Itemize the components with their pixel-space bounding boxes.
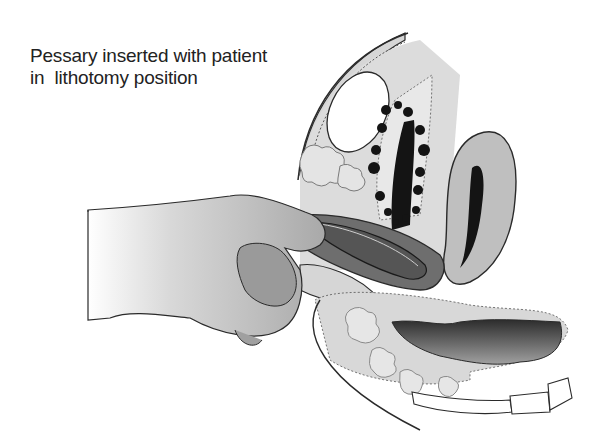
examining-hand [88, 195, 325, 345]
uterus [444, 132, 516, 284]
pelvic-illustration [0, 0, 610, 448]
